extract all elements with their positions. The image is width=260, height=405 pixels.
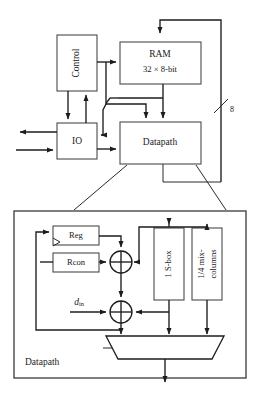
control-block-label: Control: [71, 48, 81, 77]
datapath-detail-corner-label: Datapath: [25, 357, 60, 367]
xor-data-operator: [110, 301, 132, 323]
output-mux[interactable]: [106, 336, 224, 359]
expansion-guide-lines: [74, 165, 226, 210]
xor-key-operator: [110, 251, 132, 273]
sbox-block-label: 1 S-box: [163, 250, 173, 278]
datapath-output-path: [163, 164, 221, 182]
figure-container: 8 Control RAM 32 × 8-bit IO Datapath: [0, 0, 260, 405]
block-diagram-svg: 8 Control RAM 32 × 8-bit IO Datapath: [0, 0, 260, 405]
io-block-label: IO: [72, 136, 82, 146]
mixcolumns-block-label-line2: columns: [208, 249, 218, 279]
reg-feedback-wire: [36, 232, 121, 330]
data-input-subscript: in: [79, 301, 85, 308]
mixcolumns-block-label-line1: 1/4 mix-: [196, 249, 206, 278]
sbox-output-wire: [136, 300, 169, 334]
reg-to-xor-wire: [99, 236, 121, 247]
datapath-block-label: Datapath: [143, 137, 178, 147]
ram-block-label-line2: 32 × 8-bit: [143, 64, 178, 74]
ram-block-label-line1: RAM: [149, 49, 171, 59]
reg-block-label: Reg: [69, 230, 84, 240]
bus-width-label: 8: [230, 105, 234, 114]
data-input-label: din: [74, 297, 85, 308]
rcon-block-label: Rcon: [67, 257, 86, 267]
